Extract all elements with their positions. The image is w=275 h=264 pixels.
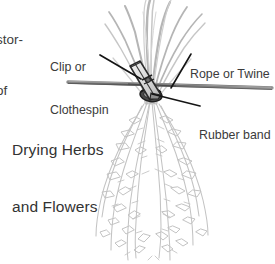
figure-title-line-2: and Flowers bbox=[12, 198, 104, 216]
herb-foliage bbox=[96, 102, 208, 260]
leader-line-rope bbox=[171, 54, 191, 88]
body-text-line-2: of bbox=[0, 83, 23, 99]
callout-label-rubber-band: Rubber band bbox=[199, 99, 271, 171]
body-text-line-1: stor- bbox=[0, 32, 23, 48]
callout-label-clip: Clip or Clothespin bbox=[50, 31, 109, 146]
callout-label-rubber-band-line-1: Rubber band bbox=[199, 128, 271, 142]
callout-label-clip-line-1: Clip or bbox=[50, 60, 109, 74]
figure-illustration-page: stor- of Drying Herbs and Flowers Clip o… bbox=[0, 0, 275, 264]
callout-label-rope-line-1: Rope or Twine bbox=[190, 67, 270, 81]
callout-label-clip-line-2: Clothespin bbox=[50, 103, 109, 117]
